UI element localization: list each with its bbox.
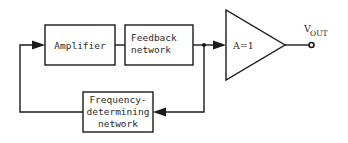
frequency-label-line1: Frequency-: [89, 94, 146, 105]
arrow-into-buffer-icon: [213, 41, 226, 50]
amplifier-label: Amplifier: [54, 40, 106, 51]
return-path-wire: [20, 45, 83, 112]
arrow-into-frequency-block-icon: [153, 108, 166, 117]
frequency-label-line3: network: [98, 118, 138, 129]
buffer-gain-label: A=1: [232, 40, 254, 51]
vout-label-sub: OUT: [310, 29, 327, 38]
frequency-label-line2: determining: [87, 106, 150, 117]
feedback-label-line1: Feedback: [131, 32, 177, 43]
junction-dot-icon: [202, 43, 206, 47]
feedback-label-line2: network: [131, 44, 171, 55]
arrow-into-amplifier-icon: [32, 41, 45, 50]
junction-down-wire: [164, 45, 204, 112]
output-terminal-icon: [309, 43, 314, 48]
oscillator-block-diagram: Amplifier Feedback network Frequency- de…: [0, 0, 348, 143]
